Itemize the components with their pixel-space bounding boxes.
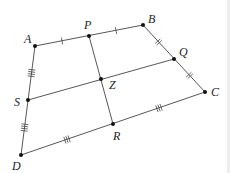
- point-p: [87, 34, 91, 38]
- point-q: [172, 57, 176, 61]
- point-c: [203, 90, 207, 94]
- label-p: P: [84, 19, 91, 31]
- tick-mark: [21, 128, 28, 129]
- right-edge: [227, 0, 230, 173]
- tick-mark: [28, 76, 35, 77]
- label-a: A: [24, 33, 31, 45]
- tick-mark: [21, 130, 28, 131]
- label-d: D: [12, 160, 21, 172]
- tick-mark: [21, 124, 28, 125]
- tick-mark: [21, 126, 28, 127]
- tick-mark: [28, 71, 35, 72]
- label-b: B: [148, 13, 155, 25]
- label-q: Q: [179, 46, 188, 58]
- label-r: R: [113, 130, 120, 142]
- tick-mark: [28, 74, 35, 75]
- point-r: [111, 122, 115, 126]
- label-c: C: [211, 86, 219, 98]
- point-b: [141, 23, 145, 27]
- point-s: [26, 98, 30, 102]
- label-s: S: [14, 96, 20, 108]
- point-a: [33, 44, 37, 48]
- label-z: Z: [109, 79, 116, 91]
- tick-mark: [28, 69, 35, 70]
- point-z: [99, 77, 103, 81]
- point-d: [19, 153, 23, 157]
- diagram-canvas: A P B Q C Z S R D: [0, 0, 230, 173]
